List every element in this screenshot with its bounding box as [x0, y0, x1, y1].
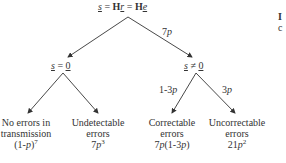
leaf-probability: (1-p)7	[0, 139, 66, 150]
leaf-no-errors: No errors in transmission (1-p)7	[0, 117, 66, 150]
edge-label-7p: 7p	[162, 26, 172, 37]
edge-left-leaf2	[63, 73, 98, 113]
leaf-undetectable-errors: Undetectable errors 7p3	[58, 117, 138, 150]
node-syndrome-nonzero: s ≠ 0	[184, 60, 203, 71]
edge-label-3p: 3p	[222, 84, 232, 95]
edge-root-left	[68, 17, 128, 57]
leaf-probability: 7p3	[58, 139, 138, 150]
leaf-probability: 21p2	[197, 139, 277, 150]
leaf-uncorrectable-errors: Uncorrectable errors 21p2	[197, 117, 277, 150]
edge-label-1-3p: 1-3p	[159, 84, 177, 95]
node-syndrome-zero: s = 0	[51, 60, 71, 71]
cropped-text-fragment: I c	[278, 11, 282, 33]
edge-left-leaf1	[28, 73, 63, 113]
root-node: s = Hr = He	[98, 1, 147, 12]
edge-root-right	[128, 17, 192, 57]
